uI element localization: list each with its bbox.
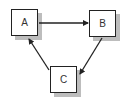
node-a-label: A	[21, 17, 28, 28]
node-a: A	[11, 9, 38, 36]
edge-b-to-c	[80, 38, 102, 74]
node-c-label: C	[60, 74, 67, 85]
edge-c-to-a	[29, 39, 49, 70]
node-b-label: B	[99, 18, 106, 29]
node-c: C	[50, 66, 77, 93]
node-b: B	[89, 10, 116, 37]
